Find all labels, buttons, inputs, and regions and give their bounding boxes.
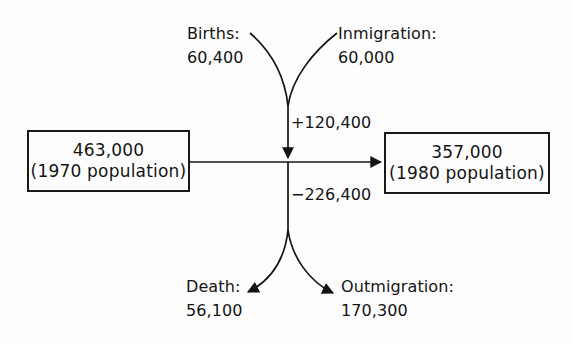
outmigration-label: Outmigration: 170,300 bbox=[341, 275, 454, 323]
death-label-quantity: 56,100 bbox=[186, 299, 243, 323]
inmigration-inflow-curve bbox=[288, 33, 337, 106]
death-label-name: Death: bbox=[186, 275, 243, 299]
births-inflow-curve bbox=[250, 33, 288, 106]
population-box-1980: 357,000 (1980 population) bbox=[384, 132, 550, 194]
population-caption-1980: (1980 population) bbox=[389, 163, 545, 184]
death-outflow-curve bbox=[248, 230, 288, 292]
outmigration-label-quantity: 170,300 bbox=[341, 299, 454, 323]
net-gain-label: +120,400 bbox=[291, 113, 371, 133]
outmigration-outflow-curve bbox=[288, 230, 333, 293]
population-box-1970: 463,000 (1970 population) bbox=[27, 130, 190, 192]
inmigration-label: Inmigration: 60,000 bbox=[338, 22, 437, 70]
population-caption-1970: (1970 population) bbox=[31, 161, 187, 182]
death-label: Death: 56,100 bbox=[186, 275, 243, 323]
births-label: Births: 60,400 bbox=[187, 22, 244, 70]
births-label-name: Births: bbox=[187, 22, 244, 46]
population-value-1970: 463,000 bbox=[73, 140, 145, 161]
inmigration-label-quantity: 60,000 bbox=[338, 46, 437, 70]
outmigration-label-name: Outmigration: bbox=[341, 275, 454, 299]
inmigration-label-name: Inmigration: bbox=[338, 22, 437, 46]
net-loss-label: −226,400 bbox=[291, 185, 371, 205]
births-label-quantity: 60,400 bbox=[187, 46, 244, 70]
population-value-1980: 357,000 bbox=[431, 142, 503, 163]
population-flow-diagram: 463,000 (1970 population) 357,000 (1980 … bbox=[0, 0, 572, 345]
